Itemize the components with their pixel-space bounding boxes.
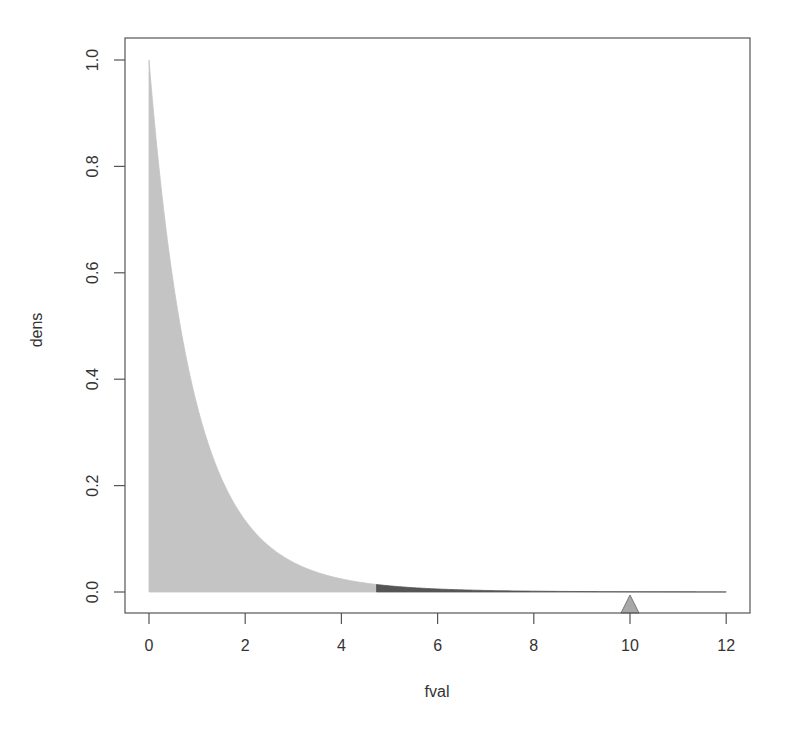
y-tick-label: 0.6 — [84, 262, 101, 284]
x-axis: 024681012 — [145, 613, 736, 654]
y-tick-label: 0.4 — [84, 368, 101, 390]
x-tick-label: 8 — [529, 637, 538, 654]
x-tick-label: 4 — [337, 637, 346, 654]
x-tick-label: 0 — [145, 637, 154, 654]
y-axis: 0.00.20.40.60.81.0 — [84, 49, 125, 603]
y-tick-label: 0.2 — [84, 474, 101, 496]
acceptance-region — [149, 60, 377, 592]
rejection-region — [377, 584, 727, 592]
markers — [621, 595, 639, 613]
x-tick-label: 6 — [433, 637, 442, 654]
y-tick-label: 0.8 — [84, 155, 101, 177]
shaded-regions — [149, 60, 726, 592]
x-tick-label: 10 — [621, 637, 639, 654]
y-axis-label: dens — [28, 313, 45, 348]
x-tick-label: 2 — [241, 637, 250, 654]
y-tick-label: 0.0 — [84, 581, 101, 603]
density-chart: 024681012 0.00.20.40.60.81.0 fval dens — [0, 0, 790, 738]
x-tick-label: 12 — [717, 637, 735, 654]
y-tick-label: 1.0 — [84, 49, 101, 71]
x-axis-label: fval — [425, 683, 450, 700]
triangle-marker-icon — [621, 595, 639, 613]
